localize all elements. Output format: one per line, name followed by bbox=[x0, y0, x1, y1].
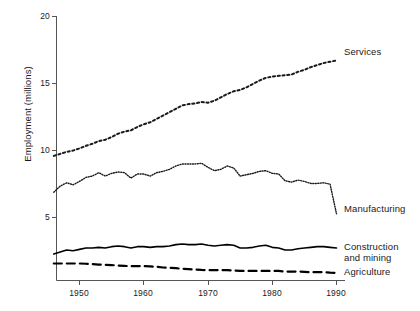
series-label-manufacturing: Manufacturing bbox=[344, 204, 406, 215]
y-tick-label-5: 5 bbox=[28, 212, 50, 222]
employment-line-chart: 20 15 10 5 1950 1960 1970 1980 1990 Empl… bbox=[0, 0, 420, 311]
x-tick-label-1990: 1990 bbox=[316, 288, 356, 298]
y-axis-title: Employment (millions) bbox=[22, 66, 33, 162]
series-line-agriculture bbox=[54, 263, 337, 272]
data-series-group bbox=[54, 60, 337, 273]
series-line-services bbox=[54, 60, 337, 155]
y-axis-title-wrapper: Employment (millions) bbox=[17, 34, 35, 194]
x-tick-label-1960: 1960 bbox=[123, 288, 163, 298]
x-tick-label-1980: 1980 bbox=[252, 288, 292, 298]
x-axis-ticks bbox=[80, 281, 337, 286]
series-label-construction-line1: Construction bbox=[344, 242, 399, 253]
y-axis-ticks bbox=[52, 17, 57, 218]
series-line-construction-and-mining bbox=[54, 244, 337, 254]
y-tick-label-20: 20 bbox=[28, 11, 50, 21]
series-line-manufacturing bbox=[54, 163, 337, 213]
series-label-agriculture: Agriculture bbox=[344, 267, 391, 278]
x-tick-label-1950: 1950 bbox=[59, 288, 99, 298]
series-label-services: Services bbox=[344, 47, 381, 58]
x-tick-label-1970: 1970 bbox=[188, 288, 228, 298]
series-label-construction-line2: and mining bbox=[344, 253, 391, 264]
